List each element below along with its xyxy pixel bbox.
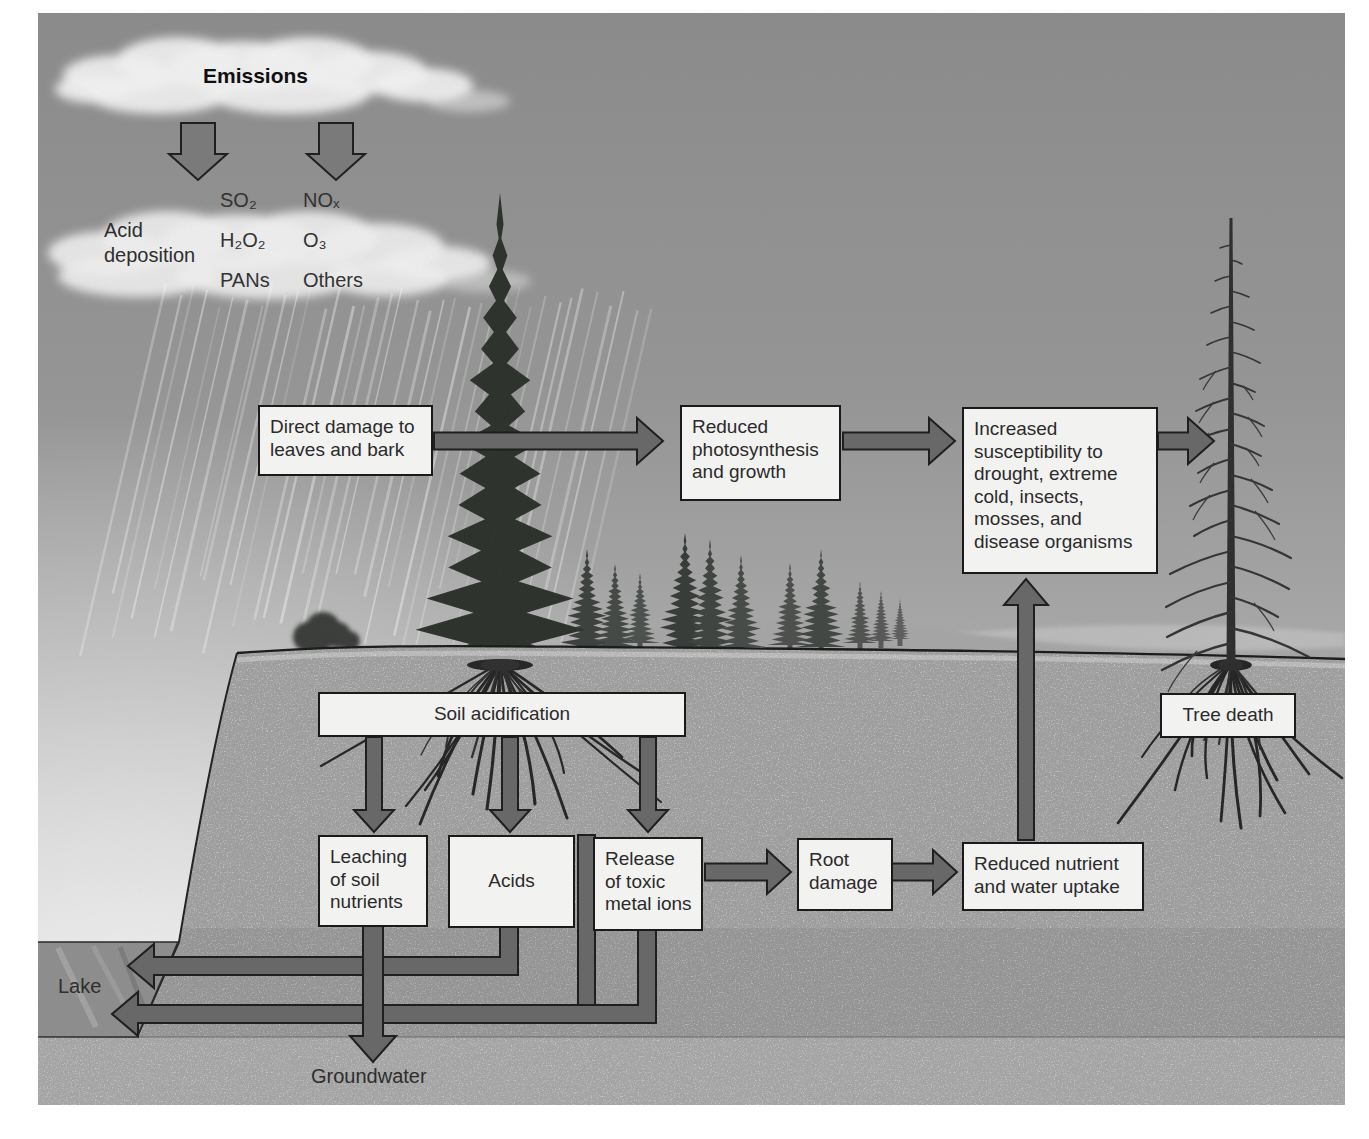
box-release-toxic: Release of toxic metal ions (593, 837, 703, 931)
box-reduced-nutrient: Reduced nutrient and water uptake (962, 842, 1144, 911)
figure-canvas: Emissions Acid deposition SO₂ H₂O₂ PANs … (38, 13, 1345, 1105)
pollutant-column-right: NOₓ O₃ Others (303, 189, 363, 309)
box-reduced-photosynthesis: Reduced photosynthesis and growth (680, 405, 841, 501)
box-root-damage: Root damage (797, 838, 893, 911)
pollutant-nox: NOₓ (303, 189, 363, 212)
box-acids: Acids (448, 835, 575, 928)
pollutant-column-left: SO₂ H₂O₂ PANs (220, 189, 270, 309)
pollutant-others: Others (303, 269, 363, 292)
emissions-label: Emissions (203, 63, 308, 88)
pollutant-o3: O₃ (303, 229, 363, 252)
acid-deposition-label: Acid deposition (104, 218, 195, 268)
pollutant-h2o2: H₂O₂ (220, 229, 270, 252)
box-leaching: Leaching of soil nutrients (318, 835, 428, 927)
box-increased-susceptibility: Increased susceptibility to drought, ext… (962, 407, 1158, 574)
box-direct-damage: Direct damage to leaves and bark (258, 405, 433, 476)
figure-acid-deposition-diagram: Emissions Acid deposition SO₂ H₂O₂ PANs … (0, 0, 1369, 1139)
acid-deposition-line1: Acid (104, 219, 143, 241)
acid-deposition-line2: deposition (104, 244, 195, 266)
pollutant-pans: PANs (220, 269, 270, 292)
box-tree-death: Tree death (1160, 693, 1296, 738)
pollutant-so2: SO₂ (220, 189, 270, 212)
groundwater-label: Groundwater (311, 1064, 427, 1089)
lake-label: Lake (58, 974, 101, 999)
box-soil-acidification: Soil acidification (318, 692, 686, 737)
